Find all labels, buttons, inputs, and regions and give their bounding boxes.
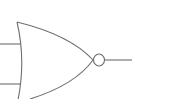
nor-gate-icon — [0, 0, 172, 99]
nor-gate-diagram — [0, 0, 172, 99]
gate-body — [17, 22, 93, 99]
inversion-bubble — [94, 54, 105, 66]
